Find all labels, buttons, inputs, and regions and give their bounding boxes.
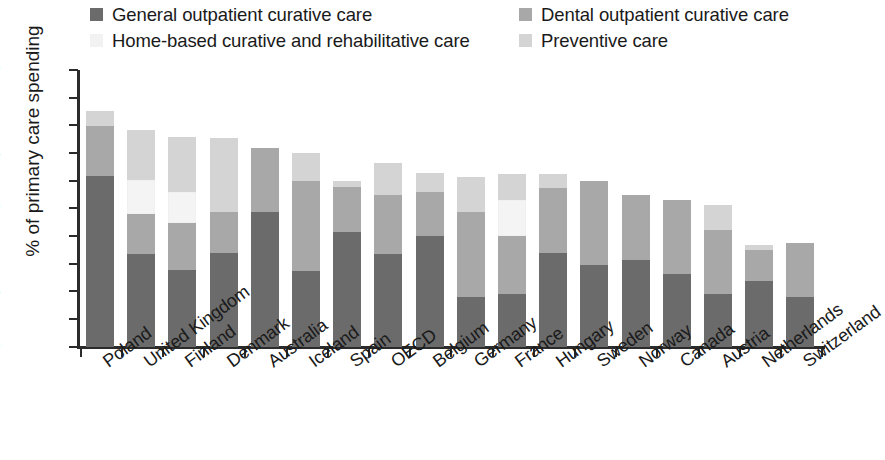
bar-segment-dental-outpatient-curative-care bbox=[786, 243, 814, 297]
bar-segment-dental-outpatient-curative-care bbox=[745, 250, 773, 280]
bar-norway bbox=[622, 1, 650, 348]
bar-segment-dental-outpatient-curative-care bbox=[622, 195, 650, 260]
bar-segment-dental-outpatient-curative-care bbox=[292, 181, 320, 271]
bar-segment-preventive-care bbox=[168, 137, 196, 192]
bar-segment-home-based-curative-and-rehabilitative-care bbox=[127, 180, 155, 215]
bar-segment-preventive-care bbox=[333, 181, 361, 187]
bar-segment-preventive-care bbox=[292, 153, 320, 181]
bar-segment-preventive-care bbox=[86, 111, 114, 126]
bar-segment-dental-outpatient-curative-care bbox=[333, 187, 361, 233]
bar-segment-dental-outpatient-curative-care bbox=[580, 181, 608, 265]
bar-segment-dental-outpatient-curative-care bbox=[210, 212, 238, 253]
bar-segment-preventive-care bbox=[539, 174, 567, 188]
bar-segment-preventive-care bbox=[704, 205, 732, 230]
bar-segment-dental-outpatient-curative-care bbox=[457, 212, 485, 298]
bar-finland bbox=[168, 1, 196, 348]
bar-segment-dental-outpatient-curative-care bbox=[86, 126, 114, 176]
bar-oecd bbox=[374, 1, 402, 348]
bar-segment-dental-outpatient-curative-care bbox=[663, 200, 691, 273]
bar-segment-preventive-care bbox=[498, 174, 526, 200]
bar-poland bbox=[86, 1, 114, 348]
bar-australia bbox=[251, 1, 279, 348]
bar-canada bbox=[663, 1, 691, 348]
bar-segment-dental-outpatient-curative-care bbox=[251, 148, 279, 212]
bar-switzerland bbox=[786, 1, 814, 348]
bar-segment-dental-outpatient-curative-care bbox=[539, 188, 567, 253]
bars-layer bbox=[0, 0, 829, 347]
bar-segment-preventive-care bbox=[127, 130, 155, 180]
bar-segment-home-based-curative-and-rehabilitative-care bbox=[498, 200, 526, 236]
bar-hungary bbox=[539, 1, 567, 348]
bar-segment-dental-outpatient-curative-care bbox=[416, 192, 444, 236]
bar-iceland bbox=[292, 1, 320, 348]
bar-segment-preventive-care bbox=[457, 177, 485, 212]
bar-segment-preventive-care bbox=[745, 245, 773, 251]
bar-segment-dental-outpatient-curative-care bbox=[704, 230, 732, 295]
bar-austria bbox=[704, 1, 732, 348]
bar-sweden bbox=[580, 1, 608, 348]
bar-segment-preventive-care bbox=[210, 138, 238, 211]
bar-segment-dental-outpatient-curative-care bbox=[498, 236, 526, 294]
bar-segment-preventive-care bbox=[374, 163, 402, 195]
bar-segment-dental-outpatient-curative-care bbox=[127, 214, 155, 254]
bar-segment-dental-outpatient-curative-care bbox=[374, 195, 402, 254]
bar-belgium bbox=[416, 1, 444, 348]
x-axis-labels: PolandUnited KingdomFinlandDenmarkAustra… bbox=[0, 347, 829, 460]
bar-segment-preventive-care bbox=[416, 173, 444, 192]
bar-segment-dental-outpatient-curative-care bbox=[168, 223, 196, 270]
bar-segment-general-outpatient-curative-care bbox=[86, 176, 114, 347]
bar-united-kingdom bbox=[127, 1, 155, 348]
bar-germany bbox=[457, 1, 485, 348]
bar-spain bbox=[333, 1, 361, 348]
bar-france bbox=[498, 1, 526, 348]
bar-netherlands bbox=[745, 1, 773, 348]
bar-segment-home-based-curative-and-rehabilitative-care bbox=[168, 192, 196, 222]
